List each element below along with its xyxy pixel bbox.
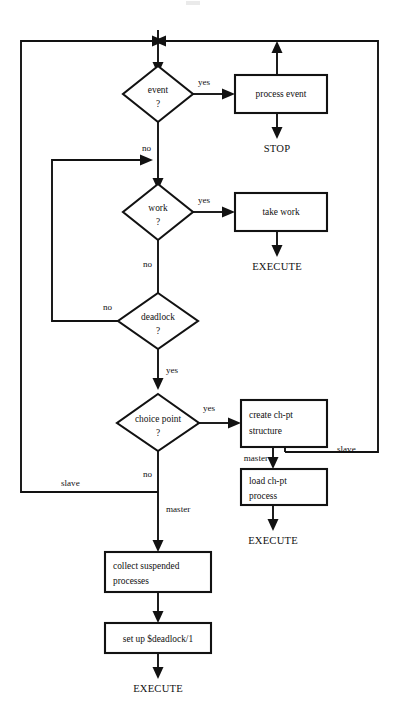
decision-event[interactable]: event ? xyxy=(123,66,193,122)
decision-deadlock[interactable]: deadlock ? xyxy=(118,293,198,349)
decision-work-label-line2: ? xyxy=(156,217,160,227)
decision-deadlock-label-line2: ? xyxy=(156,326,160,336)
connector-event-no xyxy=(153,122,164,190)
process-load-chpt-process[interactable]: load ch-pt process xyxy=(241,469,327,505)
connector-deadlock-yes xyxy=(153,349,164,390)
terminal-execute-take-work: EXECUTE xyxy=(252,261,302,272)
terminal-execute-load-chpt: EXECUTE xyxy=(248,535,298,546)
edge-label-chpt-master: master xyxy=(244,453,268,463)
decision-choice-point[interactable]: choice point ? xyxy=(117,394,199,451)
decision-event-label-line2: ? xyxy=(156,99,160,109)
decision-choice-point-label-line1: choice point xyxy=(135,414,181,424)
edge-label-work-yes: yes xyxy=(198,195,211,205)
edge-label-chpt-slave: slave xyxy=(337,444,356,454)
process-create-chpt-structure-label-line2: structure xyxy=(249,426,282,436)
connector-deadlock-no-loop xyxy=(52,155,153,322)
edge-label-event-no: no xyxy=(142,143,152,153)
process-collect-suspended-processes-label-line2: processes xyxy=(113,576,149,586)
flowchart-diagram: event ? work ? deadlock ? choice point ?… xyxy=(0,0,399,710)
connector-process-event-to-top xyxy=(272,41,283,75)
connector-choice-point-yes xyxy=(199,418,241,429)
process-process-event-label: process event xyxy=(256,89,307,99)
terminal-stop: STOP xyxy=(264,143,291,154)
edge-label-deadlock-no: no xyxy=(103,302,113,312)
connector-setup-to-execute xyxy=(153,653,164,679)
process-load-chpt-process-label-line2: process xyxy=(249,491,277,501)
process-take-work-label: take work xyxy=(262,207,300,217)
connector-collect-to-setup xyxy=(153,592,164,623)
decision-event-label-line1: event xyxy=(148,85,169,95)
connector-event-yes xyxy=(193,89,235,100)
connector-choice-point-no xyxy=(153,451,164,552)
edge-label-choice-point-master: master xyxy=(166,504,190,514)
edge-label-choice-point-no: no xyxy=(143,469,153,479)
edge-label-choice-point-slave: slave xyxy=(61,478,80,488)
edge-label-work-no: no xyxy=(143,259,153,269)
process-load-chpt-process-label-line1: load ch-pt xyxy=(249,476,287,486)
decision-work-label-line1: work xyxy=(148,203,168,213)
terminal-execute-deadlock: EXECUTE xyxy=(133,683,183,694)
connector-load-chpt-to-execute xyxy=(268,505,279,531)
decision-choice-point-label-line2: ? xyxy=(156,428,160,438)
connector-work-yes xyxy=(193,207,235,218)
decision-deadlock-label-line1: deadlock xyxy=(141,312,175,322)
process-process-event[interactable]: process event xyxy=(235,75,327,113)
process-create-chpt-structure-label-line1: create ch-pt xyxy=(249,410,293,420)
process-take-work[interactable]: take work xyxy=(235,193,327,231)
edge-label-deadlock-yes: yes xyxy=(166,365,179,375)
process-set-up-deadlock-label: set up $deadlock/1 xyxy=(123,634,194,644)
connector-process-event-to-stop xyxy=(272,113,283,139)
flowchart-canvas: event ? work ? deadlock ? choice point ?… xyxy=(0,0,399,710)
connector-take-work-to-execute xyxy=(272,231,283,257)
edge-label-event-yes: yes xyxy=(198,77,211,87)
process-create-chpt-structure[interactable]: create ch-pt structure xyxy=(241,400,327,447)
decision-work[interactable]: work ? xyxy=(123,184,193,240)
connector-chpt-master xyxy=(268,447,279,469)
process-set-up-deadlock[interactable]: set up $deadlock/1 xyxy=(105,623,211,653)
process-collect-suspended-processes-label-line1: collect suspended xyxy=(113,561,180,571)
process-collect-suspended-processes[interactable]: collect suspended processes xyxy=(105,552,211,592)
edge-label-choice-point-yes: yes xyxy=(203,403,216,413)
